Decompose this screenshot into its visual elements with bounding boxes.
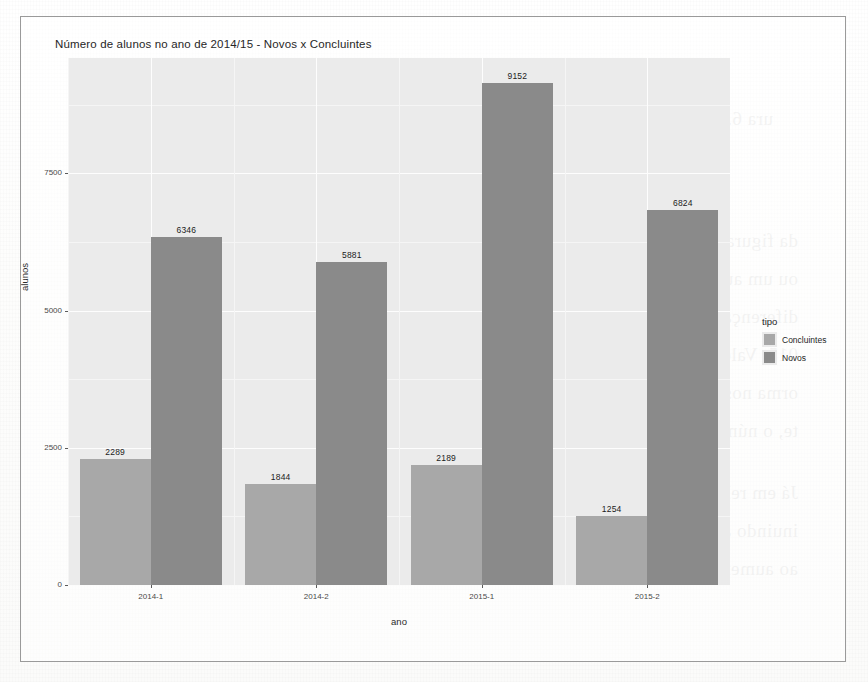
plot-panel: 22896346184458812189915212546824 xyxy=(68,58,730,585)
y-axis-tick-mark xyxy=(65,585,68,586)
bar-value-label: 2189 xyxy=(401,453,492,463)
bar-value-label: 2289 xyxy=(70,447,161,457)
x-axis-tick-label: 2015-2 xyxy=(607,592,687,601)
bar xyxy=(647,210,718,585)
bar-value-label: 1254 xyxy=(566,504,657,514)
bar xyxy=(316,262,387,585)
y-axis-tick-label: 0 xyxy=(58,580,62,589)
x-axis-tick-mark xyxy=(151,585,152,588)
x-axis-title: ano xyxy=(68,616,730,627)
bar xyxy=(411,465,482,585)
legend-items: ConcluintesNovos xyxy=(762,332,852,365)
bar xyxy=(80,459,151,585)
bar xyxy=(151,237,222,585)
x-axis-tick-label: 2015-1 xyxy=(442,592,522,601)
legend-item-label: Concluintes xyxy=(782,335,826,345)
y-axis-title: alunos xyxy=(19,263,30,291)
bar xyxy=(482,83,553,585)
legend-color-swatch xyxy=(764,334,775,345)
legend-title: tipo xyxy=(762,316,852,327)
legend: tipo ConcluintesNovos xyxy=(762,316,852,368)
legend-item[interactable]: Concluintes xyxy=(762,332,852,347)
gridline-vertical-minor xyxy=(234,58,235,585)
bar-value-label: 5881 xyxy=(306,250,397,260)
bar-value-label: 1844 xyxy=(235,472,326,482)
x-axis-tick-mark xyxy=(482,585,483,588)
gridline-vertical-minor xyxy=(399,58,400,585)
legend-item[interactable]: Novos xyxy=(762,350,852,365)
x-axis-tick-label: 2014-2 xyxy=(276,592,356,601)
bar xyxy=(576,516,647,585)
y-axis-tick-label: 7500 xyxy=(44,168,62,177)
legend-color-swatch xyxy=(764,352,775,363)
bar-chart: Número de alunos no ano de 2014/15 - Nov… xyxy=(20,16,846,662)
bar-value-label: 9152 xyxy=(472,71,563,81)
x-axis-tick-label: 2014-1 xyxy=(111,592,191,601)
x-axis-tick-mark xyxy=(316,585,317,588)
x-axis-tick-mark xyxy=(647,585,648,588)
scanned-page: ura 6.5: Comparativo do número de alunos… xyxy=(0,0,868,682)
legend-key-icon xyxy=(762,332,777,347)
gridline-vertical-minor xyxy=(68,58,69,585)
bar xyxy=(245,484,316,585)
bar-value-label: 6346 xyxy=(141,225,232,235)
legend-key-icon xyxy=(762,350,777,365)
y-axis-tick-label: 5000 xyxy=(44,306,62,315)
y-axis-tick-label: 2500 xyxy=(44,443,62,452)
legend-item-label: Novos xyxy=(782,353,806,363)
bar-value-label: 6824 xyxy=(637,198,728,208)
chart-title: Número de alunos no ano de 2014/15 - Nov… xyxy=(55,38,372,50)
